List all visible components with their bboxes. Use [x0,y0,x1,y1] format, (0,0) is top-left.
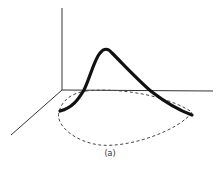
space-curve [60,49,192,115]
diagram-canvas [0,0,222,172]
figure-caption: (a) [100,149,120,158]
depth-axis [11,90,62,135]
axes [11,8,213,135]
